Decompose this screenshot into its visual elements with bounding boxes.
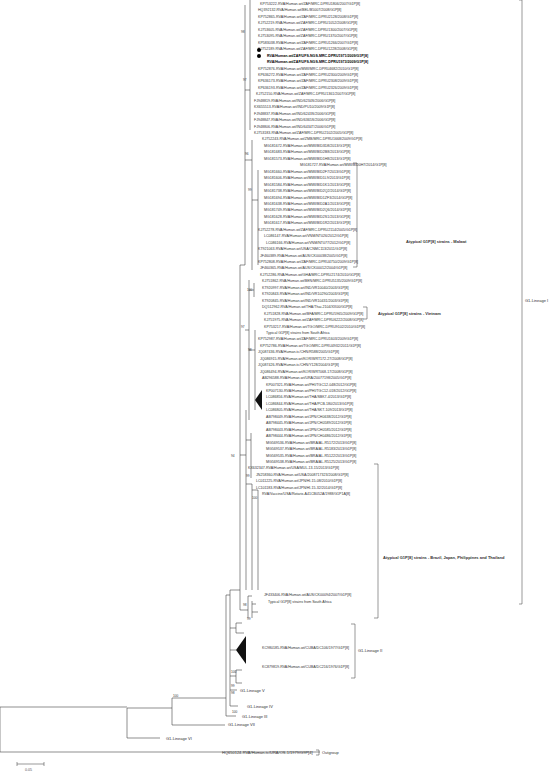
leaf-label: KP583038-RVA/Human-wt/ZAF/MRC-DPRU1266/2… xyxy=(258,41,358,45)
leaf-label: FJ948837-RVA/Human-wt/IND/6243S/2006/G1P… xyxy=(254,112,335,116)
clade-label-malawi: Atypical G1P[8] strains - Malawi xyxy=(406,239,466,244)
leaf-label: KJ752243-RVA/Human-wt/ZMB/MRC-DPRU1668/2… xyxy=(262,137,362,141)
leaf-label: KJ753605-RVA/Human-wt/ZAF/MRC-DPRU1300/2… xyxy=(258,28,357,32)
phylogenetic-tree: KP753222-RVA/Human-wt/ZAF/MRC-DPRU1806/2… xyxy=(0,0,555,781)
bootstrap-value: 97 xyxy=(241,325,245,329)
leaf-label: MG181694-RVA/Human-wt/MWI/BID1ZF3/2014/G… xyxy=(264,196,352,200)
leaf-label: KJ752189-RVA/Human-wt/ZAF/MRC-DPRU1228/2… xyxy=(258,47,357,51)
leaf-label: KJ752219-RVA/Human-wt/ZAF/MRC-DPRU1052/2… xyxy=(258,21,357,25)
leaf-label: KP752876-RVA/Human-wt/MWI/MRC-DPRU4682/2… xyxy=(258,67,359,71)
leaf-label: MG569537-RVA/Human-wt/BRA/AL-R5183/2013/… xyxy=(266,447,356,451)
clade-label-vietnam: Atypical G1P[8] strains - Vietnam xyxy=(378,311,441,316)
collapsed-clade-triangle xyxy=(236,636,246,664)
leaf-label: RVA/Vaccine/USA/Rotarix-A41CB052A/1988/G… xyxy=(262,492,350,496)
leaf-label: JQ087426-RVA/Human-tc/CHN/Y128/2004/G1P[… xyxy=(258,363,339,367)
bootstrap-value: 96 xyxy=(245,152,249,156)
leaf-label: AB798445-RVA/Human-wt/JPN/CH0589/2012/G1… xyxy=(266,421,352,425)
collapsed-clade-label: Typical G1P[8] strains from South Africa xyxy=(268,600,332,604)
leaf-label: KT920997-RVA/Human-wt/IND/VR10040/2003/G… xyxy=(262,286,349,290)
leaf-label: MG181617-RVA/Human-wt/MWI/BID1R2/2013/G1… xyxy=(264,221,351,225)
leaf-label: MG181628-RVA/Human-wt/MWI/BID2S1/2013/G1… xyxy=(264,215,350,219)
leaf-label: MG181573-RVA/Human-wt/MWI/BID1H8/2013/G1… xyxy=(264,157,351,161)
leaf-label: JQ086494-RVA/Human-wt/KOR/WRT068-17/2008… xyxy=(260,370,352,374)
leaf-label: KJ752286-RVA/Human-wt/GHA/MRC-DPRU2174/2… xyxy=(260,273,360,277)
leaf-label: KJ751862-RVA/Human-wt/BEN/MRC-DPRU5135/2… xyxy=(262,279,362,283)
leaf-label: MG181672-RVA/Human-wt/MWI/BID3D8/2013/G1… xyxy=(264,144,351,148)
clade-label-lineage-4: G1-Lineage IV xyxy=(247,704,273,709)
leaf-label: KX632347-RVA/Human-wt/USA/MUL-13-15/2013… xyxy=(248,466,339,470)
leaf-label: LC086166-RVA/Human-wt/VNM/NT077/2012/G1P… xyxy=(266,241,350,245)
leaf-label: KP752808-RVA/Human-wt/ZAF/MRC-DPRU4750/2… xyxy=(258,260,358,264)
leaf-label: LC086856-RVA/Human-wt/THA/SBK7-4/2013/G1… xyxy=(266,395,351,399)
leaf-label: JF433406-RVA/Human-wt/AUS/CK00094/2007/G… xyxy=(264,593,351,597)
leaf-label: KP007321-RVA/Human-wt/PHI/TGC12-048/2012… xyxy=(266,383,356,387)
outgroup-label: Outgroup xyxy=(322,750,339,755)
bootstrap-value: 100 xyxy=(247,288,252,292)
leaf-label: KJ751975-RVA/Human-wt/ZAF/MRC-DPRU6222/2… xyxy=(264,318,363,322)
bootstrap-value: 98 xyxy=(243,603,247,607)
leaf-label: AB798444-RVA/Human-wt/JPN/CH0486/2012/G1… xyxy=(266,434,352,438)
leaf-label: FJ948847-RVA/Human-wt/IND/6365S/2006/G1P… xyxy=(254,118,335,122)
leaf-label: MG181584-RVA/Human-wt/MWI/BID1K1/2013/G1… xyxy=(264,183,350,187)
leaf-label: FJ948806-RVA/Human-wt/IND/6434T/2006/G1P… xyxy=(254,125,335,129)
bootstrap-value: 100 xyxy=(173,694,178,698)
leaf-label: KP753217-RVA/Human-wt/TGO/MRC-DPRU9102/2… xyxy=(264,325,365,329)
bootstrap-value: 97 xyxy=(243,78,247,82)
leaf-label: KJ751828-RVA/Human-wt/BFA/MRC-DPRU5965/2… xyxy=(264,312,363,316)
leaf-label: KX655513-RVA/Human-wt/IND/PU10/2009/G1P[… xyxy=(254,105,335,109)
leaf-label: JF460389-RVA/Human-wt/AUS/CK00038/2005/G… xyxy=(260,254,347,258)
bootstrap-value: 99 xyxy=(247,617,251,621)
leaf-label: KC879819-RVA/Human-wt/CUBA/DC216/1976/G1… xyxy=(262,665,349,669)
leaf-label: MG181606-RVA/Human-wt/MWI/BID1L9/2013/G1… xyxy=(264,176,350,180)
leaf-label: KJ752150-RVA/Human-wt/ZAF/MRC-DPRU1361/2… xyxy=(256,92,355,96)
leaf-label: MG181749-RVA/Human-wt/MWI/BID2Q6/2014/G1… xyxy=(264,208,351,212)
leaf-label: KT921063-RVA/Human-wt/USA/CNMC113/2011/G… xyxy=(258,247,347,251)
leaf-label: KT920843-RVA/Human-wt/IND/VR10290/2003/G… xyxy=(262,292,349,296)
leaf-label: MG569538-RVA/Human-wt/BRA/AL-R5125/2013/… xyxy=(266,460,356,464)
leaf-label: MG569535-RVA/Human-wt/BRA/AL-R5122/2013/… xyxy=(266,454,356,458)
bootstrap-value: 100 xyxy=(232,710,237,714)
bootstrap-value: 94 xyxy=(231,454,235,458)
bootstrap-value: 99 xyxy=(248,188,252,192)
leaf-label: LC011225-RVA/Human-wt/JPN/HI-15-08/2010/… xyxy=(256,479,342,483)
collapsed-clade-triangle xyxy=(255,390,262,410)
highlight-dot-icon xyxy=(257,48,261,52)
leaf-label: MG181638-RVA/Human-wt/MWI/BID2A1/2013/G1… xyxy=(264,202,350,206)
highlight-dot-icon xyxy=(257,54,261,58)
leaf-label: RVA/Human-wt/ZAF/UFS-NGS-MRC-DPRU1973/20… xyxy=(267,60,368,64)
leaf-label: KP636193-RVA/Human-wt/ZAF/MRC-DPRU2326/2… xyxy=(258,86,358,90)
leaf-label: MG181727-RVA/Human-wt/MWI/BID0H7/2014/G1… xyxy=(300,163,387,167)
clade-label-lineage-2: G1-Lineage II xyxy=(358,648,382,653)
leaf-label: JN258360-RVA/Human-wt/USA/2008717323/200… xyxy=(256,473,349,477)
leaf-label: AB798449-RVA/Human-wt/JPN/CH0638/2012/G1… xyxy=(266,415,352,419)
leaf-label: KP753222-RVA/Human-wt/ZAF/MRC-DPRU1806/2… xyxy=(260,2,360,6)
leaf-label: LC086844-RVA/Human-wt/THA/PCB-180/2013/G… xyxy=(266,402,353,406)
leaf-label: KP752786-RVA/Human-wt/TGO/MRC-DPRU4932/2… xyxy=(260,344,361,348)
clade-label-lineage-1: G1-Lineage I xyxy=(525,298,548,303)
leaf-label: JQ086915-RVA/Human-wt/KOR/WRT172-27/2008… xyxy=(260,357,352,361)
clade-label-brazil-japan: Atypical G1P[8] strains - Brazil, Japan,… xyxy=(383,555,504,560)
scale-bar-label: 0.05 xyxy=(25,768,32,772)
bootstrap-value: 99 xyxy=(246,474,250,478)
leaf-label: KJ753183-RVA/Human-wt/ZAF/MRC-DPRU2102/2… xyxy=(254,131,353,135)
outgroup-leaf: HQ650124-RVA/Human-tc/URA/OS-1/1979/G9P[… xyxy=(222,750,313,755)
leaf-label: MG181738-RVA/Human-wt/MWI/BID2Q2/2014/G1… xyxy=(264,189,351,193)
leaf-label: KJ752278-RVA/Human-wt/ZAF/MRC-DPRU2114/2… xyxy=(258,228,357,232)
leaf-label: LC086805-RVA/Human-wt/THA/SKT-109/2013/G… xyxy=(266,408,353,412)
leaf-label: HQ392132-RVA/Human-wt/BEL/B5007/2008/G1P… xyxy=(258,8,341,12)
clade-label-lineage-3: G1-Lineage III xyxy=(242,714,267,719)
leaf-label: KP636272-RVA/Human-wt/ZAF/MRC-DPRU2300/2… xyxy=(258,73,358,77)
leaf-label: JF460365-RVA/Human-wt/AUS/CK00012/2004/G… xyxy=(260,266,347,270)
clade-label-lineage-5: G1-Lineage V xyxy=(240,688,265,693)
leaf-label: KT920845-RVA/Human-wt/IND/VR10431/2003/G… xyxy=(262,299,349,303)
leaf-label: KP752865-RVA/Human-wt/ZAF/MRC-DPRU2128/2… xyxy=(258,15,358,19)
leaf-label: AB798443-RVA/Human-wt/JPN/CH0585/2012/G1… xyxy=(266,428,352,432)
leaf-label: RVA/Human-wt/ZAF/UFS-NGS-MRC-DPRU1971/20… xyxy=(267,54,368,58)
bootstrap-value: 100 xyxy=(231,670,236,674)
bootstrap-value: 100 xyxy=(252,496,257,500)
leaf-label: LC101183-RVA/Human-wt/JPN/HI-15-32/2014/… xyxy=(256,486,342,490)
bootstrap-value: 99 xyxy=(231,684,235,688)
clade-label-lineage-7: G1-Lineage VII xyxy=(228,722,255,727)
collapsed-clade-label: Typical G1P[8] strains from South Africa xyxy=(266,331,330,335)
clade-label-lineage-6: G1-Lineage VI xyxy=(166,736,192,741)
